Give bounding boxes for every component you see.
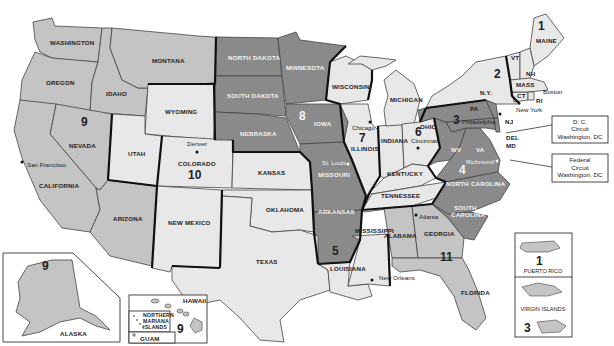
state-rhode-island[interactable] <box>528 92 534 100</box>
city-dot-new-orleans <box>371 279 374 282</box>
label-new-jersey: NJ <box>505 118 514 125</box>
label-arkansas: ARKANSAS <box>318 208 355 215</box>
label-new-hampshire: NH <box>526 70 536 77</box>
label-kentucky: KENTUCKY <box>387 170 424 177</box>
city-dot-st-louis <box>347 163 350 166</box>
label-nebraska: NEBRASKA <box>240 130 277 137</box>
circuit-number-7: 7 <box>359 131 366 145</box>
state-new-york[interactable] <box>426 56 520 108</box>
label-maryland: MD <box>506 142 516 149</box>
city-dot-cincinnati <box>417 147 420 150</box>
city-dot-denver <box>196 151 199 154</box>
federal-callout-line2: Circuit <box>571 164 589 171</box>
label-florida: FLORIDA <box>461 289 490 296</box>
circuit-number-3: 3 <box>453 113 460 127</box>
label-alabama: ALABAMA <box>384 232 417 239</box>
label-south-carolina-2: CAROLINA <box>451 211 486 218</box>
federal-callout-line3: Washington, DC <box>558 171 603 178</box>
circuit-number-hawaii: 9 <box>177 322 184 336</box>
dc-callout-line3: Washington, DC <box>558 133 603 140</box>
city-boston: Boston <box>543 88 563 95</box>
label-massachusetts: MASS <box>516 81 535 88</box>
label-puerto-rico: PUERTO RICO <box>524 268 563 274</box>
label-missouri: MISSOURI <box>318 171 350 178</box>
label-louisiana: LOUISIANA <box>330 265 366 272</box>
dc-circuit-callout: D. C. Circuit Washington, DC <box>506 116 608 143</box>
circuit-number-8: 8 <box>299 109 306 123</box>
label-delaware: DEL <box>506 134 519 141</box>
circuit-number-2: 2 <box>494 67 501 81</box>
city-san-francisco: San Francisco <box>27 161 67 168</box>
label-indiana: INDIANA <box>381 137 409 144</box>
city-new-orleans: New Orleans <box>379 274 415 281</box>
label-oklahoma: OKLAHOMA <box>266 206 304 213</box>
label-north-carolina: NORTH CAROLINA <box>446 180 506 187</box>
label-alaska: ALASKA <box>60 330 87 337</box>
city-dot-atlanta <box>415 214 418 217</box>
label-virgin-islands: VIRGIN ISLANDS <box>521 306 566 312</box>
city-dot-philadelphia <box>499 113 502 116</box>
label-colorado: COLORADO <box>178 160 216 167</box>
city-new-york: New York <box>516 106 543 113</box>
dc-callout-line2: Circuit <box>571 125 589 132</box>
label-nevada: NEVADA <box>69 142 96 149</box>
label-hawaii: HAWAII <box>183 297 206 304</box>
label-kansas: KANSAS <box>258 169 285 176</box>
circuit-number-10: 10 <box>188 168 202 182</box>
circuit-number-5: 5 <box>332 244 339 258</box>
circuit-number-puerto-rico: 1 <box>536 254 543 268</box>
label-vermont: VT <box>511 54 519 61</box>
label-georgia: GEORGIA <box>424 230 455 237</box>
circuit-number-9: 9 <box>81 115 88 129</box>
label-south-carolina-1: SOUTH <box>454 204 477 211</box>
label-connecticut: CT <box>517 92 526 99</box>
city-dot-san-francisco <box>21 161 24 164</box>
federal-circuit-callout: Federal Circuit Washington, DC <box>510 154 608 182</box>
city-cincinnati: Cincinnati <box>411 137 438 144</box>
city-dot-richmond <box>496 160 499 163</box>
label-wisconsin: WISCONSIN <box>332 83 370 90</box>
label-west-virginia: WV <box>451 146 462 153</box>
label-ohio: OHIO <box>420 123 437 130</box>
us-circuit-map: WASHINGTON OREGON IDAHO MONTANA NEVADA C… <box>0 0 614 346</box>
circuit-number-1: 1 <box>538 19 545 33</box>
federal-callout-line1: Federal <box>570 156 591 163</box>
city-denver: Denver <box>187 140 207 147</box>
label-new-york: N.Y. <box>480 89 492 96</box>
label-california: CALIFORNIA <box>39 182 79 189</box>
label-utah: UTAH <box>128 150 146 157</box>
label-arizona: ARIZONA <box>113 215 143 222</box>
label-iowa: IOWA <box>314 120 332 127</box>
caribbean-inset: 1 PUERTO RICO VIRGIN ISLANDS 3 <box>515 233 572 337</box>
label-montana: MONTANA <box>152 57 185 64</box>
label-texas: TEXAS <box>256 258 278 265</box>
circuit-number-virgin-islands: 3 <box>524 321 531 335</box>
hawaii-inset: HAWAII 9 NORTHERN MARIANA ISLANDS GUAM <box>129 295 207 343</box>
circuit-number-alaska: 9 <box>42 259 49 273</box>
circuit-number-4: 4 <box>459 163 466 177</box>
label-north-dakota: NORTH DAKOTA <box>228 54 280 61</box>
label-northern-mariana-3: ISLANDS <box>143 324 168 330</box>
city-philadelphia: Philadelphia <box>462 118 496 125</box>
label-virginia: VA <box>476 146 485 153</box>
label-new-mexico: NEW MEXICO <box>168 219 211 226</box>
label-rhode-island: RI <box>536 97 543 104</box>
label-idaho: IDAHO <box>106 90 127 97</box>
label-wyoming: WYOMING <box>165 108 197 115</box>
city-atlanta: Atlanta <box>419 213 439 220</box>
dc-callout-line1: D. C. <box>573 118 587 125</box>
label-illinois: ILLINOIS <box>351 145 379 152</box>
city-chicago: Chicago <box>352 124 375 131</box>
city-richmond: Richmond <box>466 158 494 165</box>
label-maine: MAINE <box>536 37 557 44</box>
label-tennessee: TENNESSEE <box>381 192 420 199</box>
label-south-dakota: SOUTH DAKOTA <box>227 92 279 99</box>
city-st-louis: St. Louis <box>322 159 346 166</box>
state-arizona[interactable] <box>90 180 157 266</box>
label-michigan: MICHIGAN <box>390 96 423 103</box>
label-oregon: OREGON <box>46 79 75 86</box>
circuit-number-11: 11 <box>440 250 453 264</box>
label-washington: WASHINGTON <box>50 39 95 46</box>
label-minnesota: MINNESOTA <box>286 64 325 71</box>
state-new-mexico[interactable] <box>152 186 222 272</box>
